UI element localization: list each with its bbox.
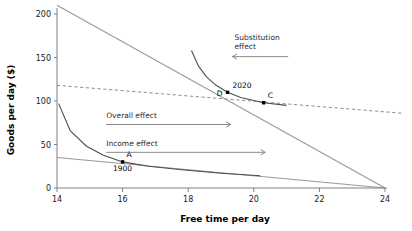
chart-container: 050100150200141618202224 A1900CD2020 Sub… (0, 0, 412, 231)
x-tick-label: 14 (52, 195, 62, 204)
data-points-layer: A1900CD2020 (113, 81, 273, 173)
point-label-d: D (217, 89, 223, 98)
y-tick-label: 150 (36, 54, 51, 63)
y-tick-label: 100 (36, 97, 51, 106)
year-label-1900: 1900 (113, 164, 132, 173)
overall-effect-label-line1: Overall effect (106, 111, 157, 120)
y-axis-title: Goods per day ($) (6, 65, 16, 156)
x-tick-label: 16 (118, 195, 128, 204)
y-tick-label: 200 (36, 10, 51, 19)
series-hypothetical-budget-line (57, 85, 401, 113)
series-indifference-curve-1900 (59, 104, 261, 176)
x-axis-title: Free time per day (180, 214, 270, 224)
point-label-c: C (268, 91, 273, 100)
point-label-a: A (127, 150, 133, 159)
labor-supply-chart: 050100150200141618202224 A1900CD2020 Sub… (0, 0, 412, 231)
x-tick-label: 18 (183, 195, 193, 204)
x-tick-label: 22 (314, 195, 324, 204)
series-layer (57, 5, 401, 188)
x-tick-label: 20 (249, 195, 259, 204)
axes-layer: 050100150200141618202224 (36, 8, 390, 204)
data-point-c (262, 101, 265, 104)
income-effect-label-line1: Income effect (106, 139, 158, 148)
data-point-d (226, 91, 229, 94)
substitution-effect-label-line2: effect (234, 42, 256, 51)
y-tick-label: 0 (46, 184, 51, 193)
substitution-effect-label-line1: Substitution (234, 33, 280, 42)
annotations-layer: SubstitutioneffectOverall effectIncome e… (106, 33, 288, 155)
year-label-2020: 2020 (233, 81, 252, 90)
y-tick-label: 50 (41, 141, 51, 150)
x-tick-label: 24 (380, 195, 390, 204)
